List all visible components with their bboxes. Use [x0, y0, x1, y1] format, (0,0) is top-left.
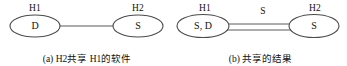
node-content-h2-b: S — [289, 21, 339, 31]
panel-a-caption: (a) H2共享 H1的软件 — [0, 53, 174, 65]
edge-label-b: S — [232, 6, 294, 16]
panel-b-caption: (b) 共享的结果 — [174, 53, 347, 65]
host-label-h1-b: H1 — [174, 3, 236, 13]
panel-b: H1 S, D H2 S S (b) 共享的结果 — [174, 0, 347, 66]
host-label-h2-a: H2 — [103, 3, 173, 13]
node-content-h2-a: S — [113, 21, 163, 31]
host-label-h1-a: H1 — [0, 3, 70, 13]
node-content-h1-a: D — [10, 21, 60, 31]
figure-software-sharing: H1 D H2 S (a) H2共享 H1的软件 H1 S, D H2 S S — [0, 0, 347, 66]
panel-a: H1 D H2 S (a) H2共享 H1的软件 — [0, 0, 174, 66]
node-content-h1-b: S, D — [178, 21, 228, 31]
